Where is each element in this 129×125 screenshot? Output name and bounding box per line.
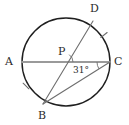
point-label-p: P [58,46,65,57]
arc-tick-mark-dc [101,33,107,38]
geometry-canvas [0,0,129,125]
point-label-d: D [90,3,99,14]
angle-measure-label: 31° [73,66,89,75]
point-label-a: A [5,56,13,67]
angle-arc-at-c [97,62,99,69]
geometry-figure: A B C D P 31° [0,0,129,125]
point-label-c: C [114,56,122,67]
point-label-b: B [38,110,46,121]
